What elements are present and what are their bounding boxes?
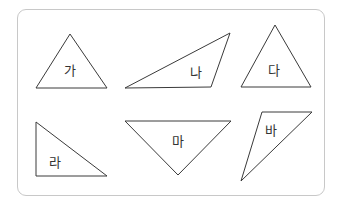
triangle-label-ga: 가 [64, 64, 76, 77]
triangle-na [125, 33, 230, 88]
triangle-label-ra: 라 [49, 156, 61, 169]
triangle-label-ba: 바 [265, 124, 277, 137]
triangle-ga [36, 34, 107, 88]
triangle-label-ma: 마 [172, 135, 184, 148]
triangle-label-da: 다 [268, 64, 280, 77]
triangles-figure [0, 0, 344, 205]
triangle-ra [36, 122, 107, 176]
triangle-label-na: 나 [190, 66, 202, 79]
triangle-da [241, 25, 311, 87]
